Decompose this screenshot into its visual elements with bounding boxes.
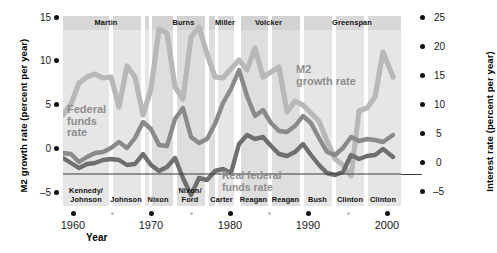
x-tick-dot-1960 (71, 211, 76, 216)
x-tick-label-1990: 1990 (285, 219, 331, 231)
x-tick-dot-1980 (228, 211, 233, 216)
x-tick-dot-1990 (306, 211, 311, 216)
president-label-ford-line2: Ford (182, 195, 199, 204)
chart-figure: M2 growth rate (percent per year) Intere… (0, 0, 497, 253)
y-right-tick-minus5: –5 (433, 186, 467, 197)
president-label-nixon: Nixon (142, 196, 174, 205)
fed-chair-label-burns: Burns (152, 18, 215, 27)
y-right-tick-10: 10 (434, 99, 468, 110)
y-left-tick-5: 5 (17, 99, 51, 110)
fed-chair-label-miller: Miller (212, 18, 238, 27)
y-right-tick-5: 5 (436, 128, 470, 139)
y-right-tick-dot-25 (420, 15, 425, 20)
fed-chair-label-martin: Martin (63, 18, 149, 27)
annotation-real-federal-funds-rate: Real federal funds rate (222, 170, 282, 193)
annotation-m2-line2: growth rate (296, 75, 356, 87)
x-tick-dot-1975 (190, 212, 193, 215)
x-tick-label-1980: 1980 (207, 219, 253, 231)
president-label-kennedy-line2: Johnson (70, 195, 102, 204)
president-label-johnson: Johnson (110, 196, 142, 205)
president-label-reagan-2: Reagan (269, 196, 302, 205)
president-label-reagan-1: Reagan (237, 196, 270, 205)
president-label-nixon-ford: Nixon/ Ford (173, 187, 207, 204)
president-label-carter: Carter (205, 196, 238, 205)
y-right-tick-20: 20 (434, 41, 468, 52)
y-left-tick-dot-minus5 (54, 190, 59, 195)
x-tick-dot-2000 (385, 211, 390, 216)
y-right-tick-dot-5 (420, 131, 425, 136)
x-tick-dot-1985 (268, 212, 271, 215)
zero-line-extension (401, 174, 422, 175)
fed-chair-label-greenspan: Greenspan (303, 18, 401, 27)
x-tick-label-1970: 1970 (128, 219, 174, 231)
x-tick-dot-1965 (111, 212, 114, 215)
y-right-tick-dot-15 (420, 73, 425, 78)
y-left-tick-dot-10 (54, 58, 59, 63)
y-left-tick-10: 10 (17, 55, 51, 66)
annotation-m2-growth-rate: M2 growth rate (296, 64, 356, 87)
x-tick-label-1960: 1960 (50, 219, 96, 231)
y-left-tick-dot-0 (54, 146, 59, 151)
president-label-kennedy-johnson: Kennedy/ Johnson (62, 187, 110, 204)
x-tick-dot-1995 (347, 212, 350, 215)
annotation-ff-line2: funds (67, 115, 97, 127)
annotation-ff-line3: rate (67, 126, 87, 138)
annotation-m2-line1: M2 (296, 63, 311, 75)
x-axis-title: Year (86, 232, 108, 243)
y-right-tick-15: 15 (434, 70, 468, 81)
fed-chair-label-volcker: Volcker (237, 18, 300, 27)
y-left-tick-dot-15 (54, 15, 59, 20)
y-right-tick-dot-minus5 (420, 189, 425, 194)
y-right-tick-dot-10 (420, 102, 425, 107)
y-right-tick-dot-20 (420, 44, 425, 49)
x-tick-label-2000: 2000 (364, 219, 410, 231)
president-label-clinton-1: Clinton (333, 196, 367, 205)
y-right-tick-dot-0 (420, 160, 425, 165)
y-left-tick-0: 0 (17, 143, 51, 154)
y-left-tick-15: 15 (17, 12, 51, 23)
y-right-tick-25: 25 (434, 12, 468, 23)
president-label-clinton-2: Clinton (366, 196, 400, 205)
y-left-tick-dot-5 (54, 102, 59, 107)
annotation-federal-funds-rate: Federal funds rate (67, 104, 106, 139)
y-axis-right-title: Interest rate (percent per year) (484, 37, 495, 207)
x-tick-dot-1970 (149, 211, 154, 216)
president-label-bush: Bush (301, 196, 334, 205)
annotation-ff-line1: Federal (67, 103, 106, 115)
annotation-rff-line2: funds rate (222, 181, 273, 193)
y-left-tick-minus5: –5 (17, 187, 51, 198)
y-right-tick-0: 0 (436, 157, 470, 168)
annotation-rff-line1: Real federal (222, 169, 282, 181)
